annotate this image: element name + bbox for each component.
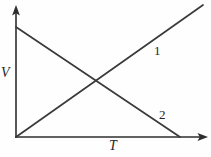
- curve-1-label: 1: [154, 44, 161, 57]
- vt-diagram-figure: V T 1 2: [0, 0, 211, 157]
- chart-canvas: [0, 0, 211, 157]
- y-axis-label: V: [1, 66, 10, 80]
- curve-2-label: 2: [159, 108, 166, 121]
- x-axis-label: T: [109, 139, 117, 153]
- curve-1-line: [16, 5, 203, 137]
